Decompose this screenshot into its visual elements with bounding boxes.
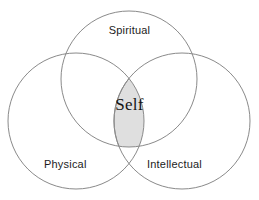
circle-label-spiritual: Spiritual (0, 24, 259, 36)
circle-label-physical: Physical (44, 158, 87, 170)
center-label-self: Self (0, 95, 259, 115)
venn-diagram: Spiritual Physical Intellectual Self (0, 0, 259, 200)
circle-label-intellectual: Intellectual (147, 158, 202, 170)
